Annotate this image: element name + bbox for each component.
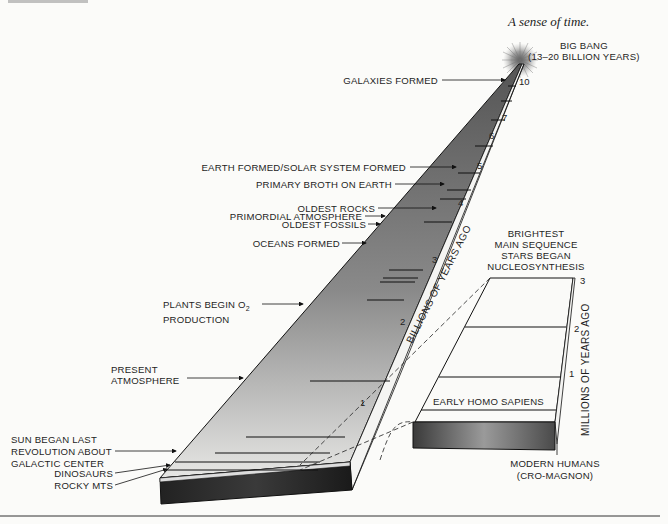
event-earth-formed: EARTH FORMED/SOLAR SYSTEM FORMED (160, 162, 406, 173)
inset-column-base (413, 422, 555, 450)
plants-line-2: PRODUCTION (163, 314, 250, 325)
tick-10: 10 (519, 76, 530, 87)
sense-of-time-diagram: A sense of time. BIG BANG (13–20 BILLION… (0, 0, 668, 524)
modern-humans-label: MODERN HUMANS (CRO-MAGNON) (510, 458, 600, 482)
tick-1: 1 (360, 397, 365, 408)
main-sequence-line: MAIN SEQUENCE (486, 239, 586, 250)
inset-top-label: BRIGHTEST MAIN SEQUENCE STARS BEGAN NUCL… (486, 228, 586, 272)
tick-6: 6 (489, 130, 494, 141)
nucleosynthesis-line: NUCLEOSYNTHESIS (486, 261, 586, 272)
plants-line-1: PLANTS BEGIN O (163, 299, 246, 310)
big-bang-line-1: BIG BANG (528, 40, 640, 51)
modern-humans-line-2: (CRO-MAGNON) (510, 470, 600, 482)
tick-5: 5 (477, 160, 482, 171)
big-bang-label: BIG BANG (13–20 BILLION YEARS) (528, 40, 640, 62)
present-atmos-line-2: ATMOSPHERE (111, 375, 179, 386)
sun-line-1: SUN BEGAN LAST (11, 434, 112, 446)
event-galaxies-formed: GALAXIES FORMED (326, 75, 438, 86)
o2-subscript: 2 (246, 305, 250, 312)
sun-line-2: REVOLUTION ABOUT (11, 446, 112, 458)
tick-4: 4 (458, 197, 463, 208)
inset-tick-2: 2 (574, 323, 579, 334)
tick-3: 3 (432, 254, 437, 265)
brightest-line: BRIGHTEST (486, 228, 586, 239)
event-plants-begin-o2: PLANTS BEGIN O2 PRODUCTION (163, 299, 250, 325)
tick-2: 2 (400, 316, 405, 327)
event-primary-broth: PRIMARY BROTH ON EARTH (220, 179, 392, 190)
event-oldest-fossils: OLDEST FOSSILS (240, 219, 366, 230)
event-rocky-mts: ROCKY MTS (40, 480, 113, 491)
modern-humans-line-1: MODERN HUMANS (510, 458, 600, 470)
present-atmos-line-1: PRESENT (111, 364, 179, 375)
event-present-atmosphere: PRESENT ATMOSPHERE (111, 364, 179, 386)
figure-caption: A sense of time. (508, 14, 589, 30)
stars-began-line: STARS BEGAN (486, 250, 586, 261)
tick-7: 7 (502, 112, 507, 123)
inset-tick-1: 1 (569, 368, 574, 379)
event-dinosaurs: DINOSAURS (40, 468, 113, 479)
big-bang-line-2: (13–20 BILLION YEARS) (528, 51, 640, 62)
inset-axis-label: MILLIONS OF YEARS AGO (580, 303, 591, 436)
event-sun-revolution: SUN BEGAN LAST REVOLUTION ABOUT GALACTIC… (11, 434, 112, 470)
event-early-homo-sapiens: EARLY HOMO SAPIENS (433, 396, 544, 407)
event-oceans-formed: OCEANS FORMED (200, 238, 340, 249)
inset-tick-3: 3 (580, 275, 585, 286)
